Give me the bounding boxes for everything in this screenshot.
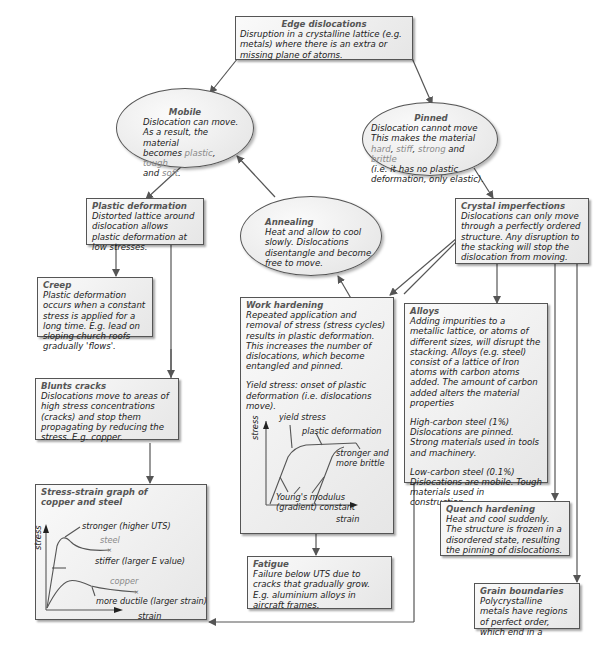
node-title: Mobile (143, 107, 227, 117)
text: and (143, 168, 162, 178)
node-quench-hardening: Quench hardening Heat and cool suddenly.… (440, 501, 570, 556)
graph-xlabel: strain (336, 514, 359, 524)
text: and (446, 144, 465, 154)
label-yield-stress: yield stress (279, 412, 326, 422)
svg-text:×: × (107, 546, 112, 553)
highlight-soft: soft (162, 168, 178, 178)
node-title: Creep (43, 280, 147, 290)
node-text: Failure below UTS due to cracks that gra… (253, 569, 386, 610)
node-text-line: As a result, the material (143, 127, 243, 147)
label-stiffer: stiffer (larger E value) (95, 556, 185, 566)
highlight-tough: tough (143, 158, 168, 168)
highlight-plastic: plastic (185, 148, 213, 158)
node-grain-boundaries: Grain boundaries Polycrystalline metals … (474, 583, 580, 629)
highlight-strong: strong (418, 144, 446, 154)
graph-xlabel: strain (138, 611, 161, 621)
spacer (410, 408, 542, 417)
node-title: Edge dislocations (240, 19, 408, 29)
node-title: Blunts cracks (41, 381, 173, 391)
node-text-line: Dislocation cannot move (371, 123, 491, 133)
label-plastic-deformation: plastic deformation (302, 426, 382, 436)
node-title: Grain boundaries (480, 586, 574, 596)
node-fatigue: Fatigue Failure below UTS due to cracks … (247, 556, 392, 609)
graph-ylabel: stress (250, 416, 260, 440)
spacer (410, 458, 542, 467)
node-title: Pinned (371, 113, 491, 123)
high-carbon-text: Dislocations are pinned. Strong material… (410, 427, 542, 458)
node-title: Plastic deformation (92, 201, 198, 211)
high-carbon-title: High-carbon steel (1%) (410, 417, 542, 427)
text: . (178, 168, 181, 178)
label-stronger-brittle-2: more brittle (336, 458, 385, 468)
label-copper: copper (110, 576, 138, 586)
label-youngs-modulus-2: (gradient) constant (276, 502, 355, 512)
node-text: Plastic deformation occurs when a consta… (43, 290, 147, 351)
node-text: Disruption in a crystalline lattice (e.g… (240, 29, 408, 60)
node-text-line: and soft. (143, 168, 243, 178)
svg-text:×: × (134, 588, 139, 595)
node-plastic-deformation: Plastic deformation Distorted lattice ar… (86, 198, 204, 245)
label-stronger-uts: stronger (higher UTS) (82, 521, 171, 531)
node-title: Alloys (410, 306, 542, 316)
highlight-hard: hard (371, 144, 391, 154)
node-text-line: This makes the material (371, 133, 491, 143)
node-pinned: Pinned Dislocation cannot move This make… (362, 102, 498, 176)
node-title: Crystal imperfections (461, 201, 583, 211)
label-stronger-brittle-1: stronger and (336, 448, 389, 458)
node-edge-dislocations: Edge dislocations Disruption in a crysta… (235, 16, 413, 60)
concept-map: Edge dislocations Disruption in a crysta… (0, 0, 611, 659)
node-text: Heat and cool suddenly. The structure is… (446, 514, 564, 555)
node-text-line: (i.e. it has no plastic deformation, onl… (371, 164, 491, 184)
node-title: Fatigue (253, 559, 386, 569)
label-youngs-modulus-1: Young's modulus (276, 492, 345, 502)
node-title: Annealing (265, 217, 373, 227)
node-text-line: becomes plastic, tough (143, 148, 243, 168)
node-crystal-imperfections: Crystal imperfections Dislocations can o… (455, 198, 589, 264)
node-alloys: Alloys Adding impurities to a metallic l… (404, 303, 548, 483)
text: , (213, 148, 216, 158)
node-text: Distorted lattice around dislocation all… (92, 211, 198, 252)
graph-ylabel: stress (33, 526, 43, 550)
node-text: Polycrystalline metals have regions of p… (480, 596, 574, 637)
node-text-line: Dislocation can move. (143, 117, 243, 127)
node-blunts-cracks: Blunts cracks Dislocations move to areas… (35, 378, 179, 440)
low-carbon-title: Low-carbon steel (0.1%) (410, 467, 542, 477)
node-creep: Creep Plastic deformation occurs when a … (37, 277, 153, 337)
label-more-ductile: more ductile (larger strain) (96, 596, 207, 606)
node-text: Dislocations move to areas of high stres… (41, 391, 173, 442)
node-mobile: Mobile Dislocation can move. As a result… (116, 88, 254, 168)
highlight-stiff: stiff (396, 144, 412, 154)
node-title: Quench hardening (446, 504, 564, 514)
label-steel: steel (100, 535, 120, 545)
node-text: Heat and allow to cool slowly. Dislocati… (265, 227, 373, 268)
node-text: Adding impurities to a metallic lattice,… (410, 316, 542, 408)
node-text-line: hard, stiff, strong and brittle (371, 144, 491, 164)
node-annealing: Annealing Heat and allow to cool slowly.… (240, 196, 382, 276)
node-text: Dislocations can only move through a per… (461, 211, 583, 262)
text: becomes (143, 148, 185, 158)
highlight-brittle: brittle (371, 154, 397, 164)
